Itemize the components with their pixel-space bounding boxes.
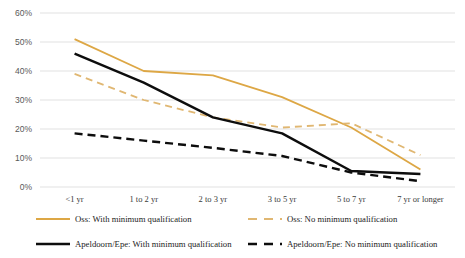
line-chart: 60%50%40%30%20%10%0% <1 yr1 to 2 yr2 to … [0,0,465,258]
legend-label: Oss: No minimum qualification [287,214,397,224]
legend-item-oss-no-minimum-qualification[interactable]: Oss: No minimum qualification [248,206,397,232]
legend-swatch-dashed-orange [248,213,282,225]
series-line-0 [75,39,421,170]
legend-swatch-dashed-black [248,238,282,250]
series-line-3 [75,133,421,181]
legend-swatch-solid-orange [36,213,70,225]
legend-label: Apeldoorn/Epe: No minimum qualification [287,239,437,249]
legend-item-apeldoorn-epe-no-minimum-qualification[interactable]: Apeldoorn/Epe: No minimum qualification [248,231,437,257]
legend-label: Apeldoorn/Epe: With minimum qualificatio… [75,239,232,249]
legend-swatch-solid-black [36,238,70,250]
legend-label: Oss: With minimum qualification [75,214,192,224]
legend-item-apeldoorn-epe-with-minimum-qualification[interactable]: Apeldoorn/Epe: With minimum qualificatio… [36,231,232,257]
chart-legend: Oss: With minimum qualification Oss: No … [0,206,465,258]
legend-item-oss-with-minimum-qualification[interactable]: Oss: With minimum qualification [36,206,192,232]
series-line-2 [75,54,421,174]
